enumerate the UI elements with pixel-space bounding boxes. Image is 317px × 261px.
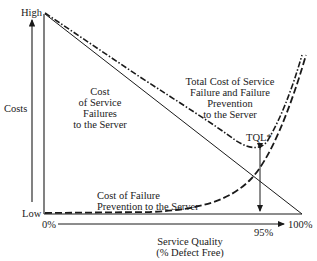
x-axis-title-line2: (% Defect Free) xyxy=(135,247,245,258)
failure-cost-label-line: Cost xyxy=(60,86,140,97)
x-tick-95: 95% xyxy=(254,227,273,238)
failure-cost-label-line: Failures xyxy=(60,108,140,119)
failure-cost-label: Cost of Service Failures to the Server xyxy=(60,86,140,130)
failure-cost-label-line: of Service xyxy=(60,97,140,108)
failure-cost-label-line: to the Server xyxy=(60,119,140,130)
prevention-cost-label: Cost of Failure Prevention to the Server xyxy=(97,190,199,212)
x-axis-title-line1: Service Quality xyxy=(135,236,245,247)
total-cost-label: Total Cost of Service Failure and Failur… xyxy=(175,76,285,120)
y-label-high: High xyxy=(21,7,42,18)
x-tick-100: 100% xyxy=(288,219,313,230)
x-tick-0: 0% xyxy=(42,219,56,230)
total-cost-label-line: Prevention xyxy=(175,98,285,109)
cost-of-quality-diagram: High Low Costs 0% 95% 100% Service Quali… xyxy=(0,0,317,261)
prevention-cost-label-line: Prevention to the Server xyxy=(97,201,199,212)
x-axis-title: Service Quality (% Defect Free) xyxy=(135,236,245,258)
total-cost-label-line: Total Cost of Service xyxy=(175,76,285,87)
total-cost-label-line: Failure and Failure xyxy=(175,87,285,98)
total-cost-label-line: to the Server xyxy=(175,109,285,120)
y-axis-title: Costs xyxy=(4,103,27,114)
y-label-low: Low xyxy=(22,208,41,219)
prevention-cost-label-line: Cost of Failure xyxy=(97,190,199,201)
tql-label: TQL* xyxy=(246,132,272,143)
